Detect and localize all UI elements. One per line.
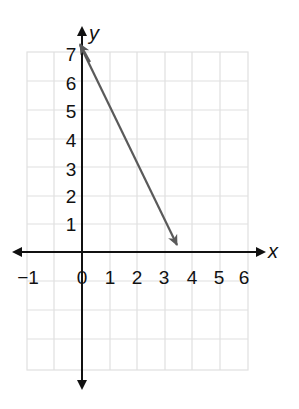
ray-line [80, 45, 177, 245]
svg-text:0: 0 [77, 267, 88, 288]
svg-text:1: 1 [105, 267, 116, 288]
svg-text:7: 7 [66, 44, 77, 65]
svg-text:2: 2 [132, 267, 143, 288]
svg-text:2: 2 [66, 186, 77, 207]
svg-text:5: 5 [214, 267, 225, 288]
grid [27, 52, 248, 370]
svg-text:−1: −1 [17, 267, 39, 288]
coordinate-plane: −1 0 1 2 3 4 5 6 1 2 3 4 5 6 7 x y [0, 0, 299, 409]
svg-text:6: 6 [239, 267, 250, 288]
svg-text:6: 6 [66, 73, 77, 94]
y-axis-label: y [87, 22, 100, 44]
svg-text:5: 5 [66, 101, 77, 122]
svg-text:4: 4 [66, 130, 77, 151]
svg-text:3: 3 [66, 159, 77, 180]
svg-text:3: 3 [159, 267, 170, 288]
svg-text:4: 4 [187, 267, 198, 288]
x-axis-label: x [267, 240, 279, 262]
axes [14, 28, 264, 388]
svg-text:1: 1 [66, 214, 77, 235]
